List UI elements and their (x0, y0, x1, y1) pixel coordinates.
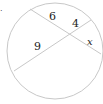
segment-label-4: 4 (72, 17, 79, 30)
list-marker: . (0, 4, 3, 13)
chord-b (14, 20, 91, 71)
segment-label-x: x (87, 36, 93, 47)
segment-label-9: 9 (34, 40, 41, 53)
intersecting-chords-diagram: . 6 4 9 x (0, 0, 103, 104)
segment-label-6: 6 (49, 10, 56, 23)
